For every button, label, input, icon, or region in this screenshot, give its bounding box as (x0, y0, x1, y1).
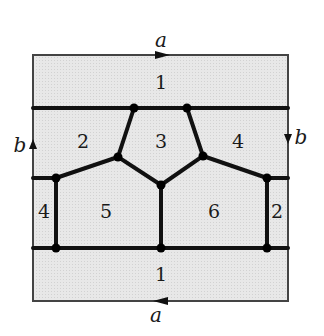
vertex (263, 244, 272, 253)
region-label-1-top: 1 (155, 71, 167, 93)
region-label-5: 5 (100, 200, 112, 222)
edge-label-left: b (14, 133, 27, 157)
vertex (130, 104, 139, 113)
vertex (157, 244, 166, 253)
region-label-2-right: 2 (271, 200, 283, 222)
edge-label-bottom: a (150, 303, 162, 327)
region-label-1-bottom: 1 (155, 263, 167, 285)
vertex (157, 181, 166, 190)
vertex (52, 244, 61, 253)
edge-label-right: b (295, 125, 308, 149)
region-label-4-left: 4 (38, 200, 50, 222)
vertex (263, 174, 272, 183)
torus-map-diagram: a a b b 1 2 3 4 4 5 6 2 1 (0, 0, 324, 336)
vertex (52, 174, 61, 183)
region-label-3: 3 (155, 130, 167, 152)
vertex (183, 104, 192, 113)
region-label-2: 2 (77, 130, 89, 152)
region-label-6: 6 (208, 200, 220, 222)
vertex (199, 152, 208, 161)
region-label-4: 4 (232, 130, 244, 152)
vertex (114, 153, 123, 162)
edge-label-top: a (155, 28, 167, 52)
